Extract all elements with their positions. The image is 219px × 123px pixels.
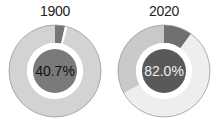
center-percentage-label: 40.7% xyxy=(35,63,75,79)
chart-title: 1900 xyxy=(0,3,110,19)
donut-chart: 40.7% xyxy=(7,23,103,119)
donut-chart: 82.0% xyxy=(116,23,212,119)
donut-panel-2020: 2020 82.0% xyxy=(109,0,219,123)
donut-panel-1900: 1900 40.7% xyxy=(0,0,110,123)
center-percentage-label: 82.0% xyxy=(144,63,184,79)
chart-title: 2020 xyxy=(109,3,219,19)
